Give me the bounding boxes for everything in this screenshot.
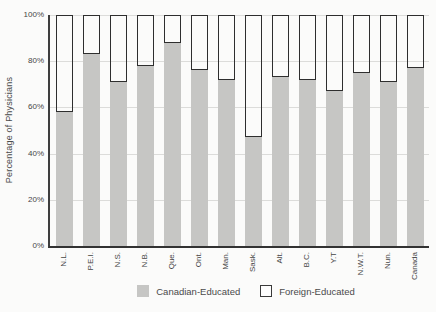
legend-label-canadian-educated: Canadian-Educated (156, 286, 240, 297)
legend: Canadian-Educated Foreign-Educated (56, 284, 436, 298)
bar-ns (110, 15, 127, 246)
plot-area (48, 15, 429, 248)
physicians-education-chart: Percentage of Physicians 0%20%40%60%80%1… (0, 0, 436, 312)
segment-canadian-educated (218, 80, 235, 246)
segment-foreign-educated (380, 15, 397, 82)
segment-canadian-educated (83, 54, 100, 246)
segment-foreign-educated (110, 15, 127, 82)
gridline-40 (50, 154, 429, 155)
segment-canadian-educated (56, 112, 73, 246)
y-axis-title: Percentage of Physicians (3, 50, 15, 210)
foreign-educated-swatch-icon (260, 285, 272, 297)
segment-foreign-educated (407, 15, 424, 68)
bar-nwt (353, 15, 370, 246)
bar-man (218, 15, 235, 246)
y-tick-0pct: 0% (8, 241, 44, 251)
y-tick-20pct: 20% (8, 195, 44, 205)
segment-foreign-educated (272, 15, 289, 77)
bar-bc (299, 15, 316, 246)
bar-que (164, 15, 181, 246)
bar-ont (191, 15, 208, 246)
y-tick-60pct: 60% (8, 102, 44, 112)
y-tick-40pct: 40% (8, 149, 44, 159)
segment-canadian-educated (326, 91, 343, 246)
bar-nl (56, 15, 73, 246)
segment-foreign-educated (353, 15, 370, 73)
bar-nun (380, 15, 397, 246)
segment-foreign-educated (83, 15, 100, 54)
y-tick-80pct: 80% (8, 56, 44, 66)
bar-nb (137, 15, 154, 246)
gridline-100 (50, 15, 429, 16)
legend-label-foreign-educated: Foreign-Educated (279, 286, 355, 297)
segment-canadian-educated (245, 137, 262, 246)
segment-canadian-educated (110, 82, 127, 246)
segment-foreign-educated (218, 15, 235, 80)
segment-canadian-educated (299, 80, 316, 246)
segment-foreign-educated (245, 15, 262, 137)
gridline-20 (50, 200, 429, 201)
segment-foreign-educated (56, 15, 73, 112)
segment-foreign-educated (164, 15, 181, 43)
segment-canadian-educated (353, 73, 370, 246)
segment-foreign-educated (137, 15, 154, 66)
bar-alt (272, 15, 289, 246)
bar-pei (83, 15, 100, 246)
segment-foreign-educated (191, 15, 208, 70)
bar-yt (326, 15, 343, 246)
bar-canada (407, 15, 424, 246)
segment-canadian-educated (380, 82, 397, 246)
gridline-60 (50, 107, 429, 108)
segment-foreign-educated (299, 15, 316, 80)
segment-canadian-educated (407, 68, 424, 246)
canadian-educated-swatch-icon (137, 285, 149, 297)
bar-sask (245, 15, 262, 246)
segment-canadian-educated (272, 77, 289, 246)
segment-canadian-educated (191, 70, 208, 246)
segment-canadian-educated (137, 66, 154, 246)
legend-item-foreign-educated: Foreign-Educated (260, 285, 355, 297)
segment-canadian-educated (164, 43, 181, 246)
gridline-80 (50, 61, 429, 62)
segment-foreign-educated (326, 15, 343, 91)
y-tick-100pct: 100% (8, 10, 44, 20)
legend-item-canadian-educated: Canadian-Educated (137, 285, 240, 297)
